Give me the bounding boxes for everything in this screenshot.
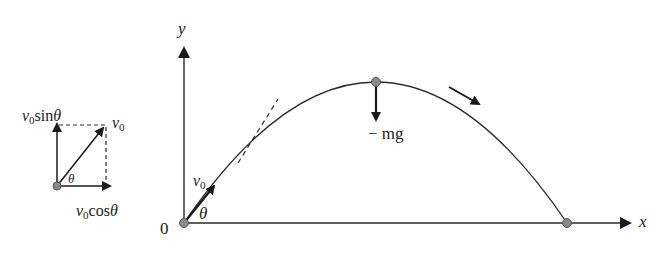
- projectile-diagram: [0, 0, 670, 275]
- x-axis-label: x: [639, 213, 647, 230]
- apex-ball: [372, 78, 381, 87]
- launch-ball: [180, 219, 189, 228]
- origin-label: 0: [160, 220, 169, 237]
- landing-ball: [563, 219, 572, 228]
- horizontal-component-label: v0cosθ: [76, 203, 118, 221]
- resultant-velocity-arrow: [57, 128, 103, 186]
- inset-ball: [53, 182, 61, 190]
- inset-angle-label: θ: [68, 172, 74, 185]
- resultant-velocity-label: v0: [112, 115, 125, 133]
- launch-angle-label: θ: [199, 205, 207, 222]
- y-axis-label: y: [178, 20, 186, 37]
- launch-velocity-label: v0: [193, 173, 206, 191]
- vertical-component-label: v0sinθ: [22, 108, 61, 126]
- motion-direction-arrow: [449, 87, 479, 104]
- tangent-dashed-line: [238, 99, 278, 163]
- gravity-force-label: − mg: [368, 125, 404, 142]
- velocity-decomposition-inset: [53, 124, 110, 190]
